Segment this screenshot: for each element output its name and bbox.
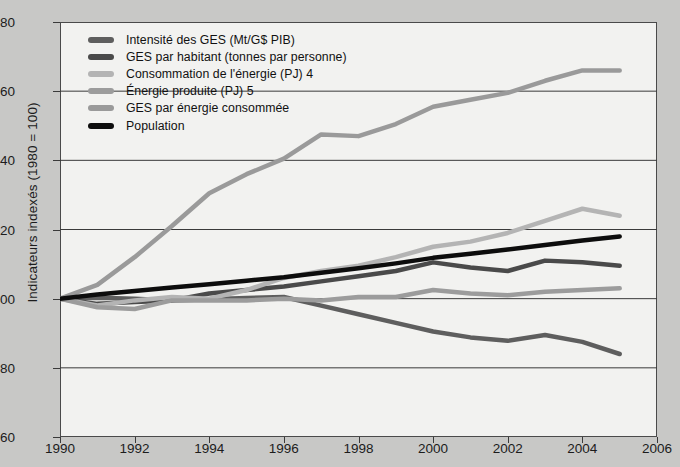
x-tick-label-2006: 2006 xyxy=(612,441,680,456)
chart-legend: Intensité des GES (Mt/G$ PIB)GES par hab… xyxy=(88,31,347,134)
y-tick-label-160: 160 xyxy=(0,84,15,99)
y-tick-label-180: 180 xyxy=(0,15,15,30)
legend-swatch-icon-3 xyxy=(88,88,114,94)
y-tick-mark-80 xyxy=(53,368,60,369)
y-tick-label-80: 80 xyxy=(0,360,15,375)
legend-label-0: Intensité des GES (Mt/G$ PIB) xyxy=(126,33,295,47)
legend-item-0[interactable]: Intensité des GES (Mt/G$ PIB) xyxy=(88,31,347,48)
y-axis-label: Indicateurs indexés (1980 = 100) xyxy=(25,93,40,313)
legend-item-2[interactable]: Consommation de l'énergie (PJ) 4 xyxy=(88,65,347,82)
chart-container: Indicateurs indexés (1980 = 100) 6080100… xyxy=(0,0,680,467)
y-tick-label-100: 100 xyxy=(0,291,15,306)
y-tick-label-60: 60 xyxy=(0,430,15,445)
x-tick-mark-2002 xyxy=(508,437,509,443)
legend-label-3: Énergie produite (PJ) 5 xyxy=(126,84,254,98)
x-tick-mark-1990 xyxy=(60,437,61,443)
legend-label-2: Consommation de l'énergie (PJ) 4 xyxy=(126,67,313,81)
y-tick-mark-100 xyxy=(53,299,60,300)
x-tick-mark-1992 xyxy=(135,437,136,443)
y-tick-label-120: 120 xyxy=(0,222,15,237)
legend-item-5[interactable]: Population xyxy=(88,117,347,134)
y-tick-mark-140 xyxy=(53,160,60,161)
legend-swatch-icon-0 xyxy=(88,37,114,43)
y-tick-mark-160 xyxy=(53,91,60,92)
y-tick-mark-120 xyxy=(53,230,60,231)
y-tick-mark-180 xyxy=(53,22,60,23)
legend-item-4[interactable]: GES par énergie consommée xyxy=(88,100,347,117)
legend-label-1: GES par habitant (tonnes par personne) xyxy=(126,50,347,64)
legend-swatch-icon-4 xyxy=(88,105,114,111)
legend-label-5: Population xyxy=(126,119,185,133)
x-tick-mark-1996 xyxy=(284,437,285,443)
legend-item-1[interactable]: GES par habitant (tonnes par personne) xyxy=(88,48,347,65)
legend-swatch-icon-2 xyxy=(88,71,114,77)
legend-swatch-icon-1 xyxy=(88,54,114,60)
legend-item-3[interactable]: Énergie produite (PJ) 5 xyxy=(88,83,347,100)
x-tick-mark-2006 xyxy=(657,437,658,443)
legend-swatch-icon-5 xyxy=(88,123,114,129)
x-tick-mark-2000 xyxy=(433,437,434,443)
x-tick-mark-1994 xyxy=(209,437,210,443)
x-tick-mark-1998 xyxy=(359,437,360,443)
x-tick-mark-2004 xyxy=(582,437,583,443)
legend-label-4: GES par énergie consommée xyxy=(126,101,289,115)
y-tick-label-140: 140 xyxy=(0,153,15,168)
y-tick-mark-60 xyxy=(53,437,60,438)
